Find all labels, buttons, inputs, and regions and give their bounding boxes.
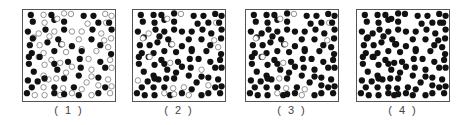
filled-particle xyxy=(331,35,337,41)
filled-particle xyxy=(429,90,435,96)
filled-particle xyxy=(102,65,108,71)
filled-particle xyxy=(61,26,67,32)
filled-particle xyxy=(254,69,260,75)
filled-particle xyxy=(253,19,259,25)
hollow-particle xyxy=(169,42,174,47)
filled-particle xyxy=(171,19,177,25)
hollow-particle xyxy=(89,92,94,97)
hollow-particle xyxy=(69,90,74,95)
filled-particle xyxy=(311,67,317,73)
filled-particle xyxy=(403,64,409,70)
filled-particle xyxy=(395,26,401,32)
filled-particle xyxy=(388,16,394,22)
hollow-particle xyxy=(109,84,114,89)
filled-particle xyxy=(212,65,218,71)
filled-particle xyxy=(51,90,57,96)
hollow-particle xyxy=(140,36,145,41)
filled-particle xyxy=(320,42,326,48)
filled-particle xyxy=(307,21,313,27)
filled-particle xyxy=(264,20,270,26)
filled-particle xyxy=(318,82,324,88)
filled-particle xyxy=(424,13,430,19)
hollow-particle xyxy=(101,38,106,43)
hollow-particle xyxy=(96,83,101,88)
hollow-particle xyxy=(60,86,65,91)
hollow-particle xyxy=(162,90,167,95)
filled-particle xyxy=(274,61,280,67)
filled-particle xyxy=(413,86,419,92)
filled-particle xyxy=(264,92,270,98)
filled-particle xyxy=(195,56,201,62)
filled-particle xyxy=(402,11,408,17)
filled-particle xyxy=(154,39,160,45)
filled-particle xyxy=(78,65,84,71)
filled-particle xyxy=(395,75,401,81)
filled-particle xyxy=(399,59,405,65)
filled-particle xyxy=(360,54,366,60)
filled-particle xyxy=(442,83,448,89)
hollow-particle xyxy=(178,11,183,16)
filled-particle xyxy=(328,44,334,50)
filled-particle xyxy=(248,77,254,83)
hollow-particle xyxy=(63,49,68,54)
filled-particle xyxy=(151,75,157,81)
filled-particle xyxy=(442,51,448,57)
filled-particle xyxy=(88,36,94,42)
filled-particle xyxy=(395,19,401,25)
hollow-particle xyxy=(84,80,89,85)
filled-particle xyxy=(388,67,394,73)
hollow-particle xyxy=(171,91,176,96)
hollow-particle xyxy=(59,42,64,47)
filled-particle xyxy=(247,90,253,96)
filled-particle xyxy=(89,26,95,32)
hollow-particle xyxy=(277,76,282,81)
hollow-particle xyxy=(89,74,94,79)
filled-particle xyxy=(218,83,224,89)
hollow-particle xyxy=(260,54,265,59)
filled-particle xyxy=(360,61,366,67)
hollow-particle xyxy=(282,42,287,47)
particles xyxy=(246,10,338,101)
filled-particle xyxy=(27,42,33,48)
hollow-particle xyxy=(42,20,47,25)
filled-particle xyxy=(189,86,195,92)
filled-particle xyxy=(441,90,447,96)
hollow-particle xyxy=(275,90,280,95)
filled-particle xyxy=(393,41,399,47)
filled-particle xyxy=(316,48,322,54)
filled-particle xyxy=(265,26,271,32)
hollow-particle xyxy=(146,31,151,36)
hollow-particle xyxy=(47,34,52,39)
filled-particle xyxy=(320,59,326,65)
filled-particle xyxy=(161,48,167,54)
filled-particle xyxy=(218,65,224,71)
filled-particle xyxy=(152,26,158,32)
filled-particle xyxy=(330,90,336,96)
filled-particle xyxy=(138,12,144,18)
filled-particle xyxy=(391,60,397,66)
filled-particle xyxy=(419,56,425,62)
filled-particle xyxy=(25,77,31,83)
filled-particle xyxy=(207,59,213,65)
filled-particle xyxy=(439,76,445,82)
hollow-particle xyxy=(69,64,74,69)
filled-particle xyxy=(179,28,185,34)
hollow-particle xyxy=(170,86,175,91)
filled-particle xyxy=(312,26,318,32)
filled-particle xyxy=(108,51,114,57)
filled-particle xyxy=(163,75,169,81)
filled-particle xyxy=(95,90,101,96)
filled-particle xyxy=(137,42,143,48)
filled-particle xyxy=(274,48,280,54)
filled-particle xyxy=(171,75,177,81)
filled-particle xyxy=(331,83,337,89)
filled-particle xyxy=(292,28,298,34)
hollow-particle xyxy=(76,37,81,42)
filled-particle xyxy=(304,13,310,19)
filled-particle xyxy=(394,85,400,91)
filled-particle xyxy=(397,49,403,55)
filled-particle xyxy=(318,74,324,80)
filled-particle xyxy=(403,90,409,96)
filled-particle xyxy=(415,13,421,19)
filled-particle xyxy=(198,92,204,98)
